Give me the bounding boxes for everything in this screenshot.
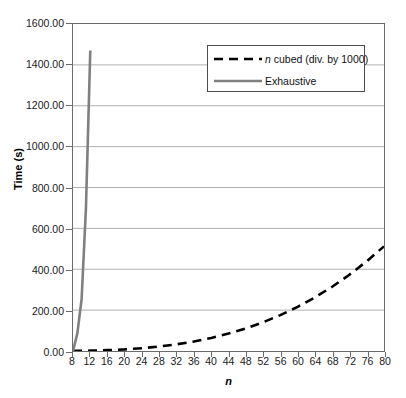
x-tick-label: 40: [205, 356, 217, 367]
x-tick-label: 28: [153, 356, 165, 367]
chart-figure: 0.00200.00400.00600.00800.001000.001200.…: [0, 0, 406, 398]
x-tick-label: 64: [310, 356, 322, 367]
x-tick-label: 32: [170, 356, 182, 367]
x-tick-label: 20: [118, 356, 130, 367]
y-tick-label: 400.00: [32, 265, 64, 276]
x-tick-label: 72: [344, 356, 356, 367]
y-tick-label: 800.00: [32, 182, 64, 193]
x-tick-label: 44: [223, 356, 235, 367]
x-tick-label: 68: [327, 356, 339, 367]
x-tick-label: 60: [292, 356, 304, 367]
y-tick-label: 1000.00: [26, 141, 64, 152]
x-axis-title: n: [72, 375, 385, 387]
legend-swatch-solid: [214, 75, 262, 87]
y-tick-label: 1400.00: [26, 59, 64, 70]
x-tick-label: 16: [101, 356, 113, 367]
legend-label-n-cubed: n cubed (div. by 1000): [265, 53, 368, 65]
y-tick-label: 0.00: [44, 347, 64, 358]
x-tick-label: 80: [379, 356, 391, 367]
y-tick-label: 1200.00: [26, 100, 64, 111]
legend-swatch-dashed: [214, 53, 262, 65]
legend-item-exhaustive: Exhaustive: [208, 69, 364, 92]
x-tick-label: 8: [69, 356, 75, 367]
y-axis-tick-labels: 0.00200.00400.00600.00800.001000.001200.…: [0, 23, 64, 352]
legend-item-n-cubed: n cubed (div. by 1000): [208, 47, 364, 70]
x-axis-tick-labels: 8121620242832364044485256606468727680: [72, 356, 385, 372]
x-tick-label: 56: [275, 356, 287, 367]
x-tick-label: 36: [188, 356, 200, 367]
x-tick-label: 12: [84, 356, 96, 367]
x-tick-label: 76: [362, 356, 374, 367]
series-path-0: [73, 246, 384, 351]
y-tick-label: 1600.00: [26, 18, 64, 29]
y-tick-label: 200.00: [32, 306, 64, 317]
x-tick-label: 48: [240, 356, 252, 367]
series-path-1: [73, 51, 90, 351]
y-tick-label: 600.00: [32, 223, 64, 234]
chart-legend: n cubed (div. by 1000) Exhaustive: [207, 45, 365, 92]
x-tick-label: 52: [257, 356, 269, 367]
legend-label-exhaustive: Exhaustive: [265, 75, 316, 87]
x-tick-label: 24: [136, 356, 148, 367]
y-axis-title: Time (s): [12, 129, 24, 209]
